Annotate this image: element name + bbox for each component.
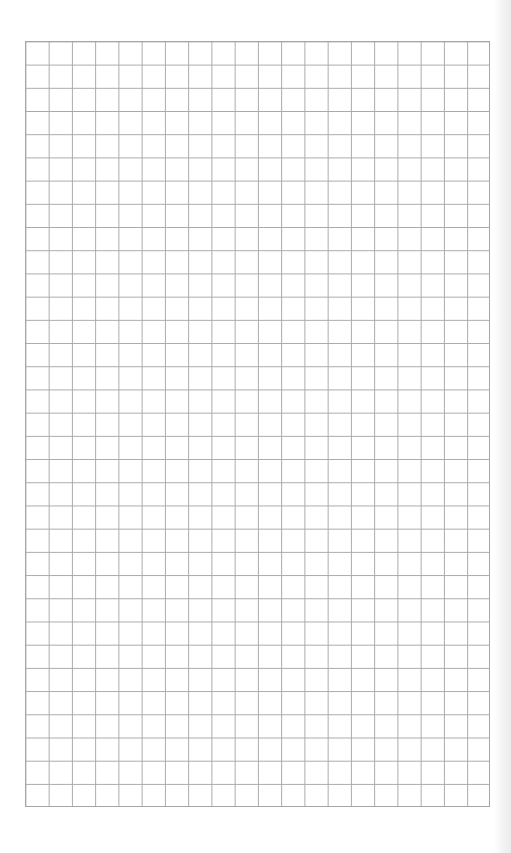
square-grid — [25, 41, 490, 807]
graph-paper-page — [0, 0, 511, 853]
